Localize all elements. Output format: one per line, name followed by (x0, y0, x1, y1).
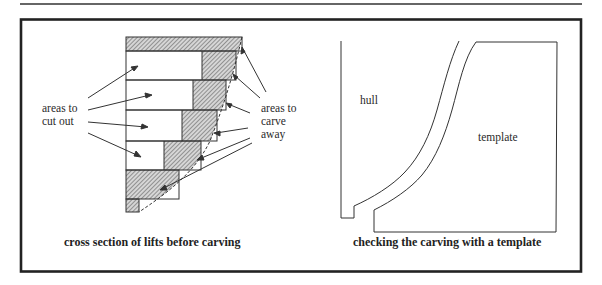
template-check-figure (341, 41, 557, 232)
lifts-cross-section (88, 37, 266, 212)
hull-outline (341, 41, 459, 218)
caption-checking-template: checking the carving with a template (353, 235, 541, 250)
template-outline (374, 42, 557, 232)
label-hull: hull (360, 94, 378, 107)
label-template: template (478, 131, 518, 144)
figure-page: areas to cut out areas to carve away cro… (0, 0, 602, 285)
label-areas-to-carve-away: areas to carve away (261, 102, 296, 141)
caption-cross-section: cross section of lifts before carving (64, 235, 241, 250)
label-areas-to-cut-out: areas to cut out (42, 102, 77, 128)
figure-frame (21, 20, 581, 272)
